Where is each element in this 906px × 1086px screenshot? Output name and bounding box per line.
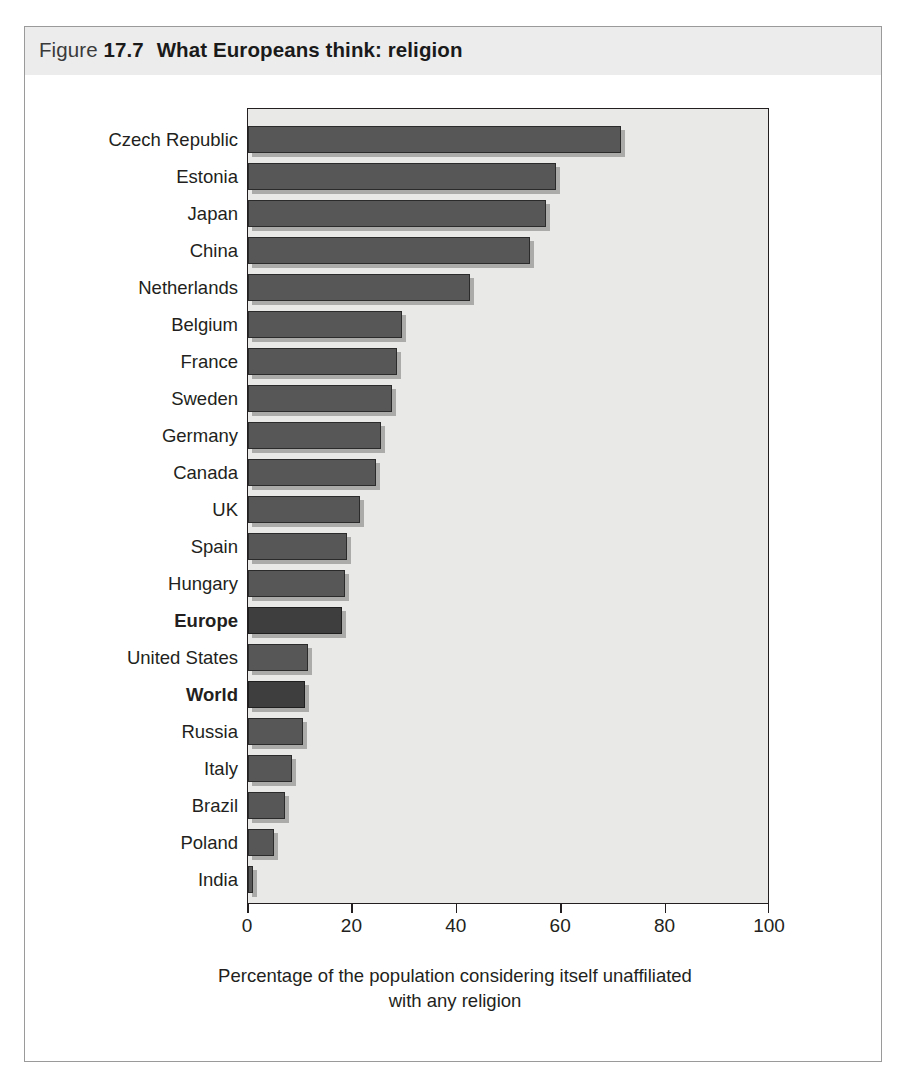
- bar-row: Russia: [248, 713, 770, 750]
- bar: [248, 237, 530, 264]
- bar: [248, 718, 303, 745]
- bar: [248, 607, 342, 634]
- bar-category-label: Belgium: [171, 306, 248, 343]
- bar: [248, 644, 308, 671]
- bar: [248, 496, 360, 523]
- x-axis-title-line-1: Percentage of the population considering…: [125, 963, 785, 988]
- bar-row: Europe: [248, 602, 770, 639]
- bar: [248, 311, 402, 338]
- x-axis-title-line-2: with any religion: [125, 988, 785, 1013]
- bar-category-label: Germany: [162, 417, 248, 454]
- bar-category-label: Hungary: [168, 565, 248, 602]
- bar-row: Japan: [248, 195, 770, 232]
- x-axis-tick-label: 80: [654, 915, 675, 937]
- bar-row: Belgium: [248, 306, 770, 343]
- bar-row: France: [248, 343, 770, 380]
- bar-row: Sweden: [248, 380, 770, 417]
- bars-layer: Czech RepublicEstoniaJapanChinaNetherlan…: [248, 109, 768, 903]
- bar-category-label: Spain: [191, 528, 248, 565]
- bar-row: China: [248, 232, 770, 269]
- bar-row: World: [248, 676, 770, 713]
- bar: [248, 459, 376, 486]
- bar: [248, 533, 347, 560]
- bar-category-label: United States: [127, 639, 248, 676]
- bar: [248, 422, 381, 449]
- bar-category-label: Czech Republic: [108, 121, 248, 158]
- bar-row: India: [248, 861, 770, 898]
- bar-row: Netherlands: [248, 269, 770, 306]
- bar-row: Poland: [248, 824, 770, 861]
- figure-card: Figure 17.7 What Europeans think: religi…: [24, 26, 882, 1062]
- x-axis-tick-label: 60: [550, 915, 571, 937]
- bar-row: Estonia: [248, 158, 770, 195]
- bar-category-label: Europe: [174, 602, 248, 639]
- x-axis-title: Percentage of the population considering…: [125, 963, 785, 1013]
- figure-title: What Europeans think: religion: [157, 38, 463, 61]
- bar-category-label: Japan: [188, 195, 248, 232]
- bar-category-label: Italy: [204, 750, 248, 787]
- figure-caption: Figure 17.7 What Europeans think: religi…: [39, 38, 463, 62]
- plot-area: Czech RepublicEstoniaJapanChinaNetherlan…: [247, 108, 769, 904]
- bar-category-label: Estonia: [176, 158, 248, 195]
- x-axis-tick-label: 40: [445, 915, 466, 937]
- bar-row: UK: [248, 491, 770, 528]
- bar: [248, 829, 274, 856]
- x-axis-tick: [456, 904, 458, 913]
- bar-category-label: Sweden: [171, 380, 248, 417]
- figure-label-word: Figure: [39, 38, 98, 61]
- x-axis-tick: [665, 904, 667, 913]
- x-axis-tick-label: 0: [242, 915, 253, 937]
- bar: [248, 385, 392, 412]
- bar-category-label: China: [190, 232, 248, 269]
- x-axis-tick-label: 20: [341, 915, 362, 937]
- x-axis: 020406080100: [247, 904, 769, 950]
- bar-row: Italy: [248, 750, 770, 787]
- figure-number: 17.7: [104, 38, 144, 61]
- x-axis-tick: [768, 904, 770, 913]
- bar: [248, 866, 253, 893]
- bar-category-label: Russia: [181, 713, 248, 750]
- bar-row: Spain: [248, 528, 770, 565]
- bar-row: Czech Republic: [248, 121, 770, 158]
- bar: [248, 348, 397, 375]
- bar-row: Canada: [248, 454, 770, 491]
- x-axis-tick: [560, 904, 562, 913]
- bar-category-label: UK: [212, 491, 248, 528]
- bar-row: Brazil: [248, 787, 770, 824]
- bar-category-label: India: [198, 861, 248, 898]
- bar-category-label: Netherlands: [138, 269, 248, 306]
- bar: [248, 570, 345, 597]
- x-axis-tick: [351, 904, 353, 913]
- bar: [248, 755, 292, 782]
- bar: [248, 163, 556, 190]
- bar-category-label: France: [180, 343, 248, 380]
- bar-category-label: World: [186, 676, 248, 713]
- bar-row: United States: [248, 639, 770, 676]
- bar-category-label: Brazil: [192, 787, 248, 824]
- bar-row: Germany: [248, 417, 770, 454]
- x-axis-tick: [247, 904, 249, 913]
- bar: [248, 681, 305, 708]
- bar: [248, 200, 546, 227]
- bar-category-label: Poland: [180, 824, 248, 861]
- bar-category-label: Canada: [173, 454, 248, 491]
- figure-header-band: Figure 17.7 What Europeans think: religi…: [25, 27, 881, 75]
- x-axis-tick-label: 100: [753, 915, 785, 937]
- bar: [248, 792, 285, 819]
- chart-region: Czech RepublicEstoniaJapanChinaNetherlan…: [25, 75, 881, 1061]
- bar-row: Hungary: [248, 565, 770, 602]
- bar: [248, 126, 621, 153]
- bar: [248, 274, 470, 301]
